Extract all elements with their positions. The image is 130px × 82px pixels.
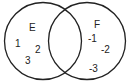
f-item-2: -2 <box>101 44 110 55</box>
circle-f <box>49 3 126 80</box>
e-item-2: 2 <box>35 44 41 55</box>
f-item-3: -3 <box>89 63 98 74</box>
set-label-f: F <box>94 19 100 30</box>
e-item-1: 1 <box>15 38 21 49</box>
e-item-3: 3 <box>25 55 31 66</box>
venn-diagram: E 1 2 3 F -1 -2 -3 <box>0 0 130 82</box>
set-label-e: E <box>29 22 36 33</box>
f-item-1: -1 <box>88 33 97 44</box>
